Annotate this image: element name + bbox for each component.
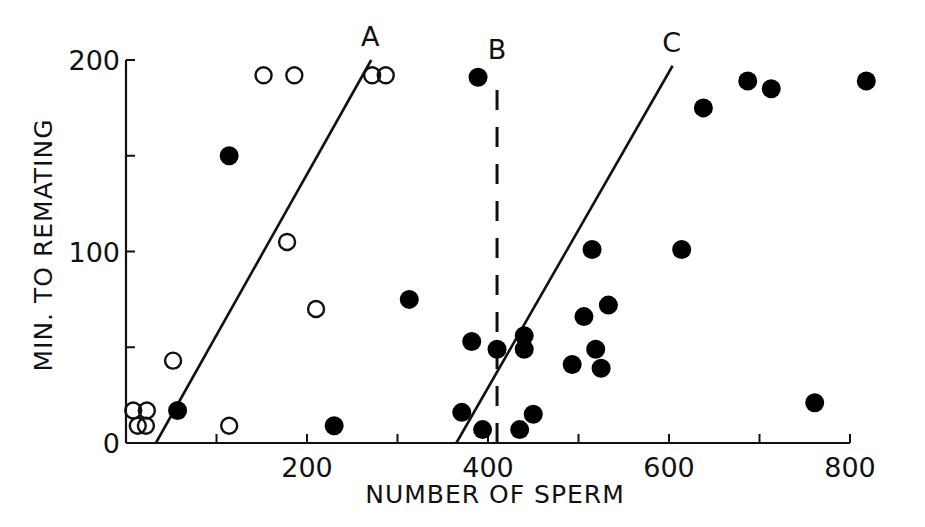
filled-circle-point [168,401,187,420]
filled-circle-point [592,359,611,378]
open-circle-point [308,301,324,317]
open-circle-point [279,234,295,250]
filled-circle-point [524,405,543,424]
filled-circle-point [462,332,481,351]
line-label-a: A [361,21,380,52]
filled-circle-point [473,420,492,439]
y-tick-label: 100 [68,237,120,268]
filled-circle-point [599,296,618,315]
scatter-chart: 2004006008000100200 ABC NUMBER OF SPERM … [0,0,925,527]
reference-lines: ABC [156,21,681,443]
filled-circle-point [762,79,781,98]
x-tick-label: 600 [643,452,695,483]
filled-circle-point [469,68,488,87]
filled-circle-point [583,240,602,259]
data-points [125,67,876,439]
filled-circle-point [488,340,507,359]
line-label-b: B [488,34,507,65]
y-tick-label: 0 [103,428,120,459]
filled-circle-point [586,340,605,359]
filled-circle-point [574,307,593,326]
filled-circle-point [805,393,824,412]
reference-line-a [156,60,371,443]
filled-circle-point [400,290,419,309]
y-axis-title: MIN. TO REMATING [29,118,58,371]
reference-line-c [456,66,672,443]
y-tick-label: 200 [68,45,120,76]
filled-circle-point [857,72,876,91]
x-axis-title: NUMBER OF SPERM [365,480,625,509]
open-circle-point [221,418,237,434]
filled-circle-point [672,240,691,259]
filled-circle-point [325,416,344,435]
filled-circle-point [738,72,757,91]
x-tick-label: 800 [824,452,876,483]
line-label-c: C [662,27,681,58]
open-circle-point [286,67,302,83]
x-tick-label: 400 [462,452,514,483]
x-tick-label: 200 [281,452,333,483]
filled-circle-point [694,98,713,117]
open-circle-point [256,67,272,83]
filled-circle-point [452,403,471,422]
filled-circle-point [563,355,582,374]
filled-circle-point [510,420,529,439]
open-circle-point [165,353,181,369]
filled-circle-point [220,146,239,165]
filled-circle-point [515,340,534,359]
